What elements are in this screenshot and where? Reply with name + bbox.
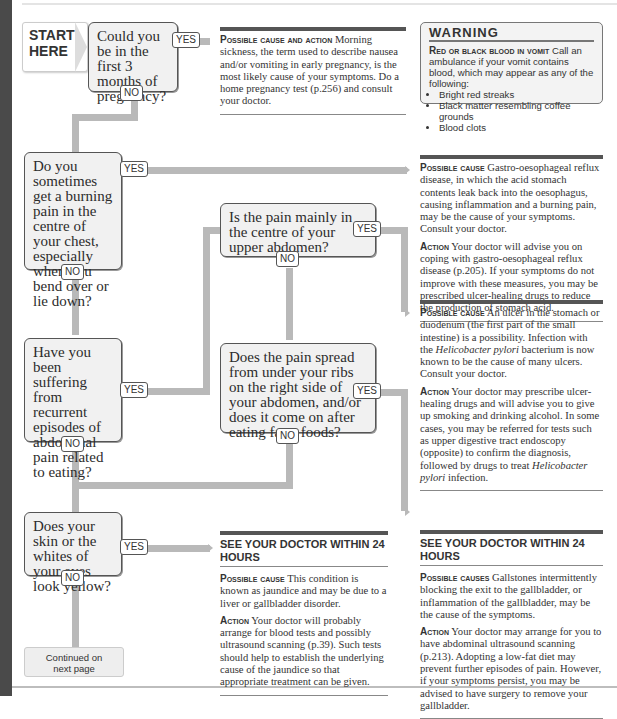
question-text: Does the pain spread from under your rib… bbox=[229, 349, 361, 440]
yes-tag: YES bbox=[120, 539, 148, 555]
panel-bar bbox=[220, 27, 406, 31]
connector-q2-yes bbox=[145, 167, 407, 174]
connector-q4-yes bbox=[145, 388, 205, 395]
yes-tag: YES bbox=[120, 382, 148, 398]
yes-tag: YES bbox=[353, 383, 381, 399]
urgency-heading: SEE YOUR DOCTOR WITHIN 24 HOURS bbox=[420, 537, 603, 566]
connector-q1-no-h bbox=[72, 114, 138, 121]
top-divider bbox=[22, 3, 617, 5]
panel-rule bbox=[420, 490, 603, 491]
label: Possible cause bbox=[220, 573, 285, 584]
no-tag: NO bbox=[276, 428, 299, 444]
question-burning-chest: Do you sometimes get a burning pain in t… bbox=[24, 152, 122, 270]
connector-q1-no-v bbox=[72, 114, 79, 154]
label: Action bbox=[220, 615, 249, 626]
question-text: Do you sometimes get a burning pain in t… bbox=[33, 158, 112, 309]
label: Possible causes bbox=[420, 572, 489, 583]
warning-item: Bright red streaks bbox=[439, 89, 594, 100]
text: infection. bbox=[448, 472, 488, 483]
continued-line2: next page bbox=[25, 663, 123, 674]
outcome-ulcer: Possible cause An ulcer in the stomach o… bbox=[420, 300, 603, 491]
panel-rule bbox=[220, 114, 406, 115]
arrow-q6-yes bbox=[208, 544, 213, 552]
no-tag: NO bbox=[61, 570, 84, 586]
no-tag: NO bbox=[276, 251, 299, 267]
connector-q5-yes-down bbox=[401, 389, 408, 511]
label: Possible cause bbox=[420, 307, 485, 318]
connector-q3-no bbox=[286, 268, 293, 340]
warning-title: WARNING bbox=[429, 27, 594, 42]
start-line2: HERE bbox=[29, 43, 81, 59]
no-tag: NO bbox=[61, 264, 84, 280]
arrow-q2-yes bbox=[405, 166, 410, 174]
text: Your doctor may prescribe ulcer-healing … bbox=[420, 386, 599, 471]
no-tag: NO bbox=[120, 85, 143, 101]
warning-item: Blood clots bbox=[439, 122, 594, 133]
italic-text: Helicobacter pylori bbox=[436, 344, 519, 355]
warning-label: Red or black blood in vomit bbox=[429, 45, 549, 56]
urgency-heading: SEE YOUR DOCTOR WITHIN 24 HOURS bbox=[220, 538, 388, 567]
start-arrow-icon bbox=[75, 22, 87, 72]
outcome-gallstones: SEE YOUR DOCTOR WITHIN 24 HOURS Possible… bbox=[420, 530, 603, 719]
warning-item: Black matter resembling coffee grounds bbox=[439, 100, 594, 122]
panel-bar bbox=[220, 531, 388, 535]
label: Action bbox=[420, 241, 449, 252]
panel-bar bbox=[420, 300, 603, 304]
panel-rule bbox=[220, 695, 388, 696]
text: Your doctor may arrange for you to have … bbox=[420, 626, 601, 711]
connector-q5-no-h bbox=[72, 482, 293, 489]
question-text: Have you been suffering from recurrent e… bbox=[33, 344, 103, 480]
page-edge-bar bbox=[0, 0, 12, 696]
connector-q3-yes-down bbox=[401, 227, 408, 312]
start-line1: START bbox=[29, 27, 81, 43]
yes-tag: YES bbox=[172, 32, 200, 48]
panel-bar bbox=[420, 155, 603, 159]
panel-bar bbox=[420, 530, 603, 534]
label: Possible cause and action bbox=[220, 34, 332, 45]
arrow-q3-yes bbox=[405, 309, 410, 317]
label: Possible cause bbox=[420, 162, 485, 173]
question-yellow-skin: Does your skin or the whites of your eye… bbox=[24, 512, 122, 576]
warning-list: Bright red streaks Black matter resembli… bbox=[429, 89, 594, 133]
yes-tag: YES bbox=[353, 221, 381, 237]
outcome-jaundice: SEE YOUR DOCTOR WITHIN 24 HOURS Possible… bbox=[220, 531, 388, 696]
yes-tag: YES bbox=[120, 161, 148, 177]
question-text: Is the pain mainly in the centre of your… bbox=[229, 209, 352, 255]
label: Action bbox=[420, 386, 449, 397]
outcome-pregnancy: Possible cause and action Morning sickne… bbox=[220, 27, 406, 115]
continued-line1: Continued on bbox=[25, 652, 123, 663]
question-recurrent-pain: Have you been suffering from recurrent e… bbox=[24, 338, 122, 442]
outcome-reflux: Possible cause Gastro-oesophageal reflux… bbox=[420, 155, 603, 322]
question-pregnancy: Could you be in the first 3 months of pr… bbox=[88, 22, 178, 92]
connector-q6-yes bbox=[145, 545, 210, 552]
arrow-q5-yes bbox=[405, 508, 410, 516]
no-tag: NO bbox=[61, 436, 84, 452]
continued-next-page[interactable]: Continued on next page bbox=[24, 647, 124, 677]
warning-box: WARNING Red or black blood in vomit Call… bbox=[420, 22, 603, 104]
connector-q4-yes-up bbox=[203, 227, 210, 395]
label: Action bbox=[420, 626, 449, 637]
